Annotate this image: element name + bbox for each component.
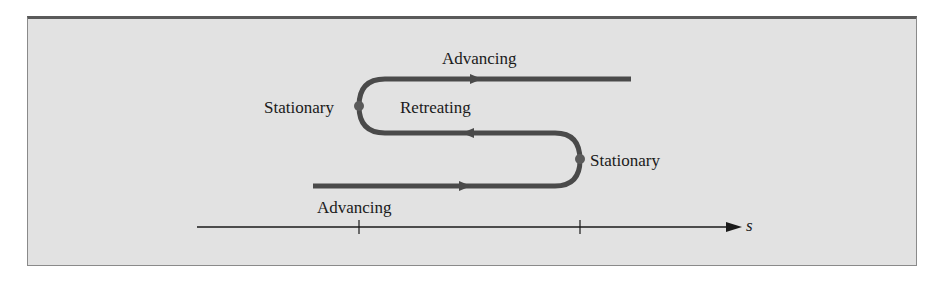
label-advancing-bottom: Advancing	[317, 199, 392, 216]
motion-diagram	[0, 0, 944, 283]
label-advancing-top: Advancing	[442, 50, 517, 67]
arrow-left-middle-icon	[462, 128, 474, 138]
arrow-right-bottom-icon	[459, 181, 471, 191]
arrow-right-top-icon	[470, 74, 482, 84]
stationary-dot-left	[354, 101, 364, 111]
stationary-dot-right	[575, 154, 585, 164]
label-stationary-left: Stationary	[264, 99, 334, 116]
s-axis-arrowhead-icon	[726, 222, 742, 232]
label-stationary-right: Stationary	[590, 152, 660, 169]
label-retreating: Retreating	[400, 99, 471, 116]
s-axis-label: s	[746, 217, 753, 234]
